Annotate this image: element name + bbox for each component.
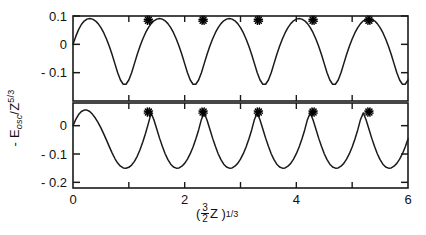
fraction-numerator: 3 xyxy=(201,203,209,213)
asterisk-markers-lower-1 xyxy=(144,108,152,116)
asterisk-markers-upper-1 xyxy=(144,16,152,24)
lower-panel-y-tick-label: 0 xyxy=(60,118,67,133)
lower-panel-frame xyxy=(73,103,408,188)
asterisk-markers-lower-3 xyxy=(254,108,262,116)
x-tick-label: 6 xyxy=(404,192,411,207)
chart-canvas: 0.10- 0.10- 0.1- 0.20246 xyxy=(0,0,426,235)
lower-panel-y-tick-label: - 0.1 xyxy=(41,147,67,162)
x-axis-title-exponent: 1/3 xyxy=(226,209,239,219)
asterisk-markers-lower-4 xyxy=(309,108,317,116)
upper-panel-y-tick-label: 0 xyxy=(60,37,67,52)
asterisk-markers-upper-3 xyxy=(254,16,262,24)
asterisk-markers-lower-5 xyxy=(365,108,373,116)
asterisk-markers-lower-2 xyxy=(199,108,207,116)
x-tick-label: 2 xyxy=(181,192,188,207)
x-axis-title-variable: Z ) xyxy=(210,206,226,221)
x-tick-label: 0 xyxy=(69,192,76,207)
upper-panel-y-tick-label: - 0.1 xyxy=(41,65,67,80)
x-axis-title-open-paren: ( xyxy=(196,206,200,221)
figure-root: - Eosc/Z5/3 0.10- 0.10- 0.1- 0.20246 ( 3… xyxy=(0,0,426,235)
asterisk-markers-upper-2 xyxy=(199,16,207,24)
upper-panel-y-tick-label: 0.1 xyxy=(49,9,67,24)
x-axis-title: ( 3 2 Z )1/3 xyxy=(196,203,238,224)
lower-panel: 0- 0.1- 0.2 xyxy=(41,103,408,190)
x-tick-label: 4 xyxy=(293,192,300,207)
x-axis-title-fraction: 3 2 xyxy=(201,203,209,224)
upper-panel: 0.10- 0.1 xyxy=(41,9,408,102)
fraction-denominator: 2 xyxy=(201,213,209,224)
oscillating-curve-lower xyxy=(73,110,408,168)
asterisk-markers-upper-4 xyxy=(309,16,317,24)
oscillating-curve-upper xyxy=(73,19,408,85)
lower-panel-y-tick-label: - 0.2 xyxy=(41,175,67,190)
asterisk-markers-upper-5 xyxy=(365,16,373,24)
